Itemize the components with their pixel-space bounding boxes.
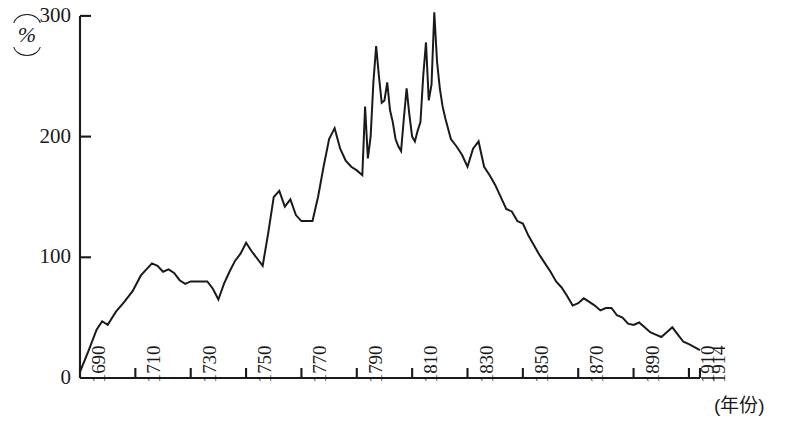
x-axis-tick-label: 1730 [199,346,221,383]
x-axis-tick-label: 1810 [420,346,442,383]
x-axis-tick-label: 1710 [143,346,165,383]
chart-container: % 0100200300 169017101730175017701790181… [0,0,789,434]
data-series-line [80,12,700,372]
x-axis-tick-label: 1790 [365,346,387,383]
axes-group [80,16,700,378]
y-axis-tick-label: 300 [0,3,71,28]
y-axis-tick-label: 100 [0,244,71,269]
x-axis-tick-label: 1690 [88,346,110,383]
x-axis-tick-label: 1770 [309,346,331,383]
y-axis-tick-label: 0 [0,365,71,390]
line-chart-plot [0,0,789,434]
x-axis-tick-label: 1890 [642,346,664,383]
x-axis-title: (年份) [714,390,765,417]
x-axis-tick-label: 1750 [254,346,276,383]
x-axis-tick-label: 1850 [531,346,553,383]
x-axis-tick-label: 1870 [586,346,608,383]
x-axis-tick-label: 1830 [476,346,498,383]
y-axis-ticks [80,16,91,257]
x-axis-tick-label: 1914 [708,346,730,383]
y-axis-tick-label: 200 [0,124,71,149]
